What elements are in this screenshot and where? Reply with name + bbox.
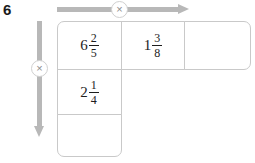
vertical-arrow-head-icon (34, 126, 44, 137)
grid-cell-r2c1[interactable]: 2 1 4 (57, 69, 122, 115)
fraction-part: 2 5 (89, 32, 99, 59)
whole-part: 6 (80, 38, 88, 53)
worksheet-problem-canvas: 6 × × 6 2 5 1 3 8 (0, 0, 255, 163)
multiply-icon-top: × (111, 1, 128, 18)
mixed-number-r1c1: 6 2 5 (80, 32, 99, 59)
numerator: 2 (89, 32, 99, 44)
question-number: 6 (3, 2, 11, 17)
grid-cell-r3c1[interactable] (57, 114, 122, 157)
grid-cell-r1c2[interactable]: 1 3 8 (121, 21, 185, 70)
horizontal-arrow-head-icon (178, 4, 189, 14)
fraction-part: 1 4 (89, 79, 99, 106)
denominator: 8 (152, 47, 162, 59)
denominator: 4 (89, 94, 99, 106)
whole-part: 1 (144, 38, 152, 53)
whole-part: 2 (80, 85, 88, 100)
grid-cell-r1c1[interactable]: 6 2 5 (57, 21, 122, 70)
area-model-grid: 6 2 5 1 3 8 2 (57, 21, 251, 157)
denominator: 5 (89, 47, 99, 59)
fraction-part: 3 8 (152, 32, 162, 59)
numerator: 1 (89, 79, 99, 91)
mixed-number-r2c1: 2 1 4 (80, 79, 99, 106)
mixed-number-r1c2: 1 3 8 (144, 32, 163, 59)
multiply-icon-left: × (31, 60, 48, 77)
grid-cell-r1c3[interactable] (184, 21, 251, 70)
numerator: 3 (152, 32, 162, 44)
